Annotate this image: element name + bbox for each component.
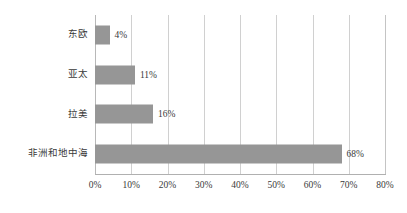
x-tick-label: 50%: [268, 180, 285, 190]
bar-value-label: 11%: [140, 70, 157, 80]
x-tick-label: 10%: [123, 180, 140, 190]
category-label: 拉美: [0, 95, 88, 135]
bar-value-label: 68%: [347, 149, 364, 159]
gridline-80pct: [385, 15, 386, 174]
bar-row: 4%: [95, 15, 385, 55]
x-tick-label: 70%: [340, 180, 357, 190]
plot-area: 4%11%16%68%: [95, 15, 385, 174]
bar-row: 16%: [95, 95, 385, 135]
x-tick-label: 40%: [231, 180, 248, 190]
bar: [95, 105, 153, 124]
x-axis-line: [95, 174, 386, 175]
x-tick-label: 0%: [89, 180, 102, 190]
x-axis-tick-labels: 0%10%20%30%40%50%60%70%80%: [0, 180, 407, 200]
bar-row: 68%: [95, 134, 385, 174]
bar-chart: 东欧亚太拉美非洲和地中海 4%11%16%68% 0%10%20%30%40%5…: [0, 0, 407, 213]
bar: [95, 65, 135, 84]
bar: [95, 25, 110, 44]
bar-value-label: 16%: [158, 109, 175, 119]
x-tick-label: 30%: [195, 180, 212, 190]
x-tick-label: 60%: [304, 180, 321, 190]
bar-value-label: 4%: [115, 30, 128, 40]
category-label: 东欧: [0, 15, 88, 55]
x-tick-label: 20%: [159, 180, 176, 190]
category-axis-labels: 东欧亚太拉美非洲和地中海: [0, 15, 88, 174]
bar-row: 11%: [95, 55, 385, 95]
category-label: 非洲和地中海: [0, 134, 88, 174]
x-tick-label: 80%: [376, 180, 393, 190]
category-label: 亚太: [0, 55, 88, 95]
bar: [95, 145, 342, 164]
